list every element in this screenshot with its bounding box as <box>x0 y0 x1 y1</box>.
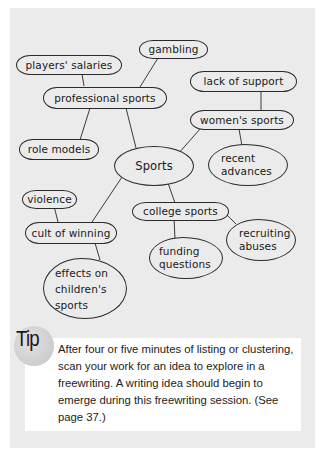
node-role-models: role models <box>19 139 99 160</box>
node-recruiting-abuses-label: recruiting abuses <box>239 227 293 253</box>
node-players-salaries: players' salaries <box>16 55 122 75</box>
node-sports-center: Sports <box>114 146 194 186</box>
node-funding-questions: funding questions <box>149 237 223 279</box>
tip-label: Tip <box>16 326 50 352</box>
tip-text: After four or five minutes of listing or… <box>58 341 298 426</box>
node-effects-label: effects on children's sports <box>55 265 115 313</box>
node-violence: violence <box>22 190 77 209</box>
node-professional-sports: professional sports <box>43 87 167 109</box>
node-recent-advances-label: recent advances <box>221 152 277 178</box>
node-recent-advances: recent advances <box>208 144 288 186</box>
node-gambling: gambling <box>139 40 208 59</box>
node-cult-of-winning: cult of winning <box>25 222 117 244</box>
node-womens-sports: women's sports <box>190 110 294 130</box>
node-lack-of-support: lack of support <box>190 71 297 92</box>
node-funding-questions-label: funding questions <box>159 245 219 271</box>
node-effects-on-childrens-sports: effects on children's sports <box>43 258 127 319</box>
node-college-sports: college sports <box>132 202 229 221</box>
node-recruiting-abuses: recruiting abuses <box>226 219 296 261</box>
